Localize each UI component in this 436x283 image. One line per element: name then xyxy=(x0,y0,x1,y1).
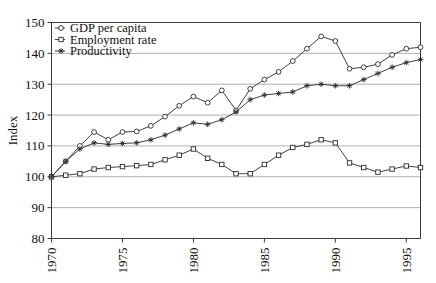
data-point-2-6 xyxy=(134,140,140,146)
x-axis: 197019751980198519901995 xyxy=(44,239,414,274)
y-tick-label-100: 100 xyxy=(25,169,45,184)
data-point-0-6 xyxy=(134,129,139,134)
data-point-2-16 xyxy=(276,91,282,97)
data-point-2-22 xyxy=(361,77,367,83)
data-point-2-20 xyxy=(333,83,339,89)
data-point-2-1 xyxy=(63,159,69,165)
y-tick-label-80: 80 xyxy=(32,231,45,246)
data-point-1-19 xyxy=(319,138,323,142)
data-point-2-15 xyxy=(262,92,268,98)
data-point-2-24 xyxy=(389,64,395,70)
line-chart: 8090100110120130140150Index1970197519801… xyxy=(0,0,436,283)
data-point-0-5 xyxy=(120,130,125,135)
data-point-0-15 xyxy=(262,77,267,82)
data-point-1-21 xyxy=(347,161,351,165)
data-point-1-3 xyxy=(92,167,96,171)
data-point-2-10 xyxy=(191,120,197,126)
data-point-0-22 xyxy=(361,65,366,70)
data-point-0-23 xyxy=(376,62,381,67)
x-tick-label-1995: 1995 xyxy=(399,248,414,274)
data-point-0-24 xyxy=(390,53,395,58)
data-point-1-11 xyxy=(205,156,209,160)
data-point-2-25 xyxy=(404,60,410,66)
data-point-2-21 xyxy=(347,83,353,89)
data-point-1-24 xyxy=(390,167,394,171)
data-point-1-6 xyxy=(134,163,138,167)
data-point-0-11 xyxy=(205,100,210,105)
data-point-2-17 xyxy=(290,89,296,95)
data-point-1-1 xyxy=(63,173,67,177)
data-point-2-3 xyxy=(91,140,97,146)
y-axis: 8090100110120130140150 xyxy=(25,15,52,246)
data-point-1-9 xyxy=(177,153,181,157)
legend-item-2: Productivity xyxy=(55,44,133,58)
legend-marker-2 xyxy=(58,48,64,54)
data-point-2-5 xyxy=(120,141,126,147)
data-point-0-12 xyxy=(219,88,224,93)
data-point-1-17 xyxy=(291,145,295,149)
data-point-2-7 xyxy=(148,137,154,143)
data-point-0-19 xyxy=(319,34,324,39)
data-point-0-10 xyxy=(191,94,196,99)
legend-marker-1 xyxy=(59,37,63,41)
data-point-1-2 xyxy=(78,172,82,176)
data-point-0-7 xyxy=(148,123,153,128)
y-tick-label-130: 130 xyxy=(25,77,45,92)
data-point-1-12 xyxy=(220,162,224,166)
y-tick-label-140: 140 xyxy=(25,46,45,61)
data-point-0-26 xyxy=(418,45,423,50)
data-point-0-25 xyxy=(404,46,409,51)
data-point-2-26 xyxy=(418,57,424,63)
data-point-2-0 xyxy=(49,174,55,180)
data-point-2-19 xyxy=(318,81,324,87)
legend-marker-0 xyxy=(59,26,64,31)
data-point-1-14 xyxy=(248,172,252,176)
y-tick-label-150: 150 xyxy=(25,15,45,30)
data-point-2-4 xyxy=(105,142,111,148)
data-point-2-9 xyxy=(176,126,182,132)
data-point-2-11 xyxy=(205,122,211,128)
data-point-1-15 xyxy=(262,162,266,166)
data-point-1-5 xyxy=(120,164,124,168)
data-point-0-8 xyxy=(163,114,168,119)
data-point-1-25 xyxy=(404,164,408,168)
x-tick-label-1975: 1975 xyxy=(115,248,130,274)
x-tick-label-1970: 1970 xyxy=(44,248,59,274)
data-point-2-12 xyxy=(219,117,225,123)
x-tick-label-1980: 1980 xyxy=(186,248,201,274)
data-point-1-7 xyxy=(149,162,153,166)
data-point-2-8 xyxy=(162,132,168,138)
series-line-2 xyxy=(52,60,421,177)
data-point-1-16 xyxy=(276,153,280,157)
series-productivity xyxy=(49,57,424,180)
data-point-2-18 xyxy=(304,83,310,89)
chart-container: 8090100110120130140150Index1970197519801… xyxy=(0,0,436,283)
data-point-1-23 xyxy=(376,170,380,174)
data-point-1-4 xyxy=(106,165,110,169)
data-point-1-20 xyxy=(333,141,337,145)
y-tick-label-90: 90 xyxy=(32,200,45,215)
data-point-0-18 xyxy=(305,46,310,51)
data-point-1-26 xyxy=(418,165,422,169)
legend: GDP per capitaEmployment rateProductivit… xyxy=(55,21,157,58)
data-point-1-8 xyxy=(163,158,167,162)
data-point-2-14 xyxy=(247,97,253,103)
y-tick-label-120: 120 xyxy=(25,108,45,123)
data-point-0-21 xyxy=(347,66,352,71)
data-point-1-13 xyxy=(234,172,238,176)
data-point-0-20 xyxy=(333,39,338,44)
data-point-2-2 xyxy=(77,146,83,152)
y-tick-label-110: 110 xyxy=(25,138,44,153)
data-point-0-4 xyxy=(106,137,111,142)
data-point-1-22 xyxy=(362,165,366,169)
x-tick-label-1990: 1990 xyxy=(328,248,343,274)
x-tick-label-1985: 1985 xyxy=(257,248,272,274)
y-axis-title: Index xyxy=(5,115,20,145)
data-point-1-10 xyxy=(191,147,195,151)
data-point-0-3 xyxy=(92,130,97,135)
data-point-0-14 xyxy=(248,86,253,91)
data-point-0-16 xyxy=(276,69,281,74)
data-point-2-23 xyxy=(375,71,381,77)
legend-label-2: Productivity xyxy=(70,44,133,58)
data-point-1-18 xyxy=(305,142,309,146)
